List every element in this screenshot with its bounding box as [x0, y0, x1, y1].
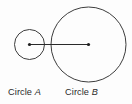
- circle-b-center-dot: [87, 43, 90, 46]
- geometry-diagram: Circle A Circle B: [0, 0, 132, 104]
- circle-a-label-prefix: Circle: [8, 87, 35, 97]
- circle-a-label-letter: A: [35, 87, 41, 97]
- circle-b-label-letter: B: [92, 87, 98, 97]
- circle-b-label: Circle B: [65, 88, 98, 97]
- circle-a-label: Circle A: [8, 88, 41, 97]
- circle-b-label-prefix: Circle: [65, 87, 92, 97]
- circle-a-center-dot: [28, 43, 31, 46]
